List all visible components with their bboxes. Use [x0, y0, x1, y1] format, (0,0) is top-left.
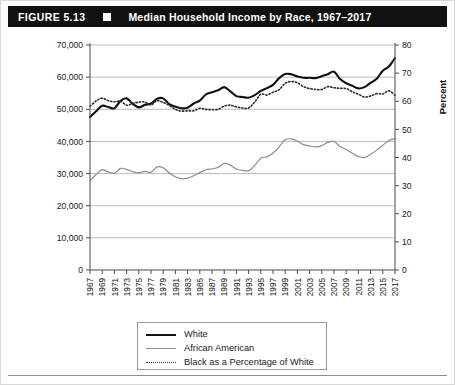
svg-text:1999: 1999: [281, 278, 290, 297]
svg-text:2003: 2003: [306, 278, 315, 297]
svg-text:70,000: 70,000: [57, 40, 84, 50]
legend-swatch-white: [146, 329, 176, 339]
svg-text:1985: 1985: [196, 278, 205, 297]
series-lines: [90, 58, 395, 181]
svg-text:2013: 2013: [367, 278, 376, 297]
svg-text:10: 10: [402, 237, 412, 247]
svg-text:40,000: 40,000: [57, 137, 84, 147]
legend-item-african-american: African American: [146, 341, 326, 355]
svg-text:80: 80: [402, 40, 412, 50]
svg-text:30,000: 30,000: [57, 169, 84, 179]
svg-text:1995: 1995: [257, 278, 266, 297]
svg-text:50,000: 50,000: [57, 104, 84, 114]
svg-text:30: 30: [402, 181, 412, 191]
svg-text:1991: 1991: [233, 278, 242, 297]
left-axis-ticks: 010,00020,00030,00040,00050,00060,00070,…: [57, 40, 90, 275]
svg-text:70: 70: [402, 68, 412, 78]
svg-text:2001: 2001: [294, 278, 303, 297]
legend-swatch-african-american: [146, 343, 176, 353]
legend: White African American Black as a Percen…: [137, 322, 327, 370]
svg-text:60,000: 60,000: [57, 72, 84, 82]
right-axis-ticks: 01020304050607080: [395, 40, 412, 275]
svg-text:2017: 2017: [391, 278, 400, 297]
legend-swatch-black-percentage: [146, 357, 176, 367]
legend-label-african-american: African American: [184, 343, 254, 353]
svg-text:60: 60: [402, 96, 412, 106]
legend-label-black-percentage: Black as a Percentage of White: [184, 357, 314, 367]
svg-text:20,000: 20,000: [57, 201, 84, 211]
svg-text:2005: 2005: [318, 278, 327, 297]
svg-text:1979: 1979: [159, 278, 168, 297]
svg-text:1983: 1983: [184, 278, 193, 297]
svg-text:0: 0: [402, 265, 407, 275]
svg-text:1973: 1973: [123, 278, 132, 297]
svg-text:20: 20: [402, 209, 412, 219]
svg-text:2011: 2011: [355, 278, 364, 296]
svg-text:1969: 1969: [98, 278, 107, 297]
svg-text:0: 0: [78, 265, 83, 275]
svg-text:1989: 1989: [220, 278, 229, 297]
svg-text:2007: 2007: [330, 278, 339, 297]
svg-text:10,000: 10,000: [57, 233, 84, 243]
svg-text:1987: 1987: [208, 278, 217, 297]
svg-text:1993: 1993: [245, 278, 254, 297]
legend-item-white: White: [146, 327, 326, 341]
svg-text:50: 50: [402, 125, 412, 135]
gridlines: [90, 45, 395, 238]
svg-text:1975: 1975: [135, 278, 144, 297]
svg-text:2009: 2009: [342, 278, 351, 297]
svg-text:1967: 1967: [86, 278, 95, 297]
series-line: [90, 139, 395, 181]
svg-text:1971: 1971: [111, 278, 120, 297]
svg-text:2015: 2015: [379, 278, 388, 297]
svg-text:1997: 1997: [269, 278, 278, 297]
x-axis-ticks: 1967196919711973197519771979198119831985…: [86, 270, 400, 296]
svg-text:1977: 1977: [147, 278, 156, 297]
bottom-rule: [8, 375, 447, 376]
svg-text:1981: 1981: [172, 278, 181, 297]
legend-item-black-percentage: Black as a Percentage of White: [146, 355, 326, 369]
figure-container: FIGURE 5.13 Median Household Income by R…: [0, 0, 455, 385]
legend-label-white: White: [184, 329, 208, 339]
svg-text:40: 40: [402, 153, 412, 163]
